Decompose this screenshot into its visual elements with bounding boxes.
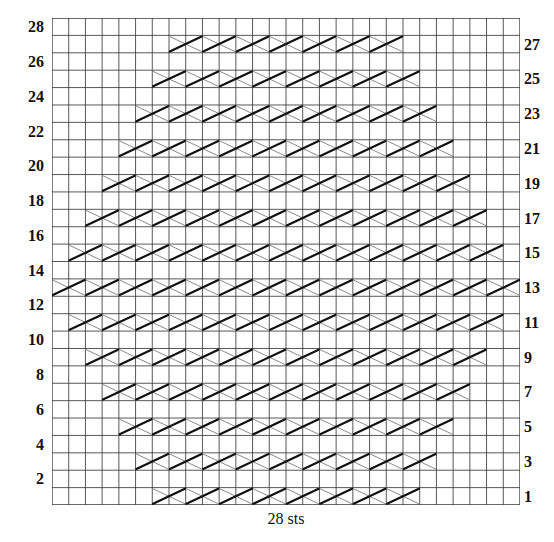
row-label-4: 4 xyxy=(0,436,44,453)
row-label-27: 27 xyxy=(524,36,554,53)
row-label-23: 23 xyxy=(524,105,554,122)
row-label-11: 11 xyxy=(524,314,554,331)
row-label-16: 16 xyxy=(0,227,44,244)
row-label-6: 6 xyxy=(0,401,44,418)
row-label-24: 24 xyxy=(0,88,44,105)
knitting-chart-figure: 282624222018161412108642 272523211917151… xyxy=(0,0,554,542)
page-title xyxy=(0,0,554,14)
row-label-15: 15 xyxy=(524,244,554,261)
row-label-28: 28 xyxy=(0,18,44,35)
row-label-14: 14 xyxy=(0,262,44,279)
row-label-17: 17 xyxy=(524,210,554,227)
row-label-3: 3 xyxy=(524,453,554,470)
row-label-7: 7 xyxy=(524,383,554,400)
row-label-25: 25 xyxy=(524,70,554,87)
row-label-21: 21 xyxy=(524,140,554,157)
row-label-8: 8 xyxy=(0,366,44,383)
row-label-2: 2 xyxy=(0,470,44,487)
row-label-9: 9 xyxy=(524,349,554,366)
row-label-22: 22 xyxy=(0,123,44,140)
row-label-20: 20 xyxy=(0,157,44,174)
row-label-26: 26 xyxy=(0,53,44,70)
row-label-10: 10 xyxy=(0,331,44,348)
chart-grid xyxy=(52,18,520,505)
row-label-1: 1 xyxy=(524,488,554,505)
stitch-count-caption: 28 sts xyxy=(52,510,520,528)
row-label-18: 18 xyxy=(0,192,44,209)
row-label-5: 5 xyxy=(524,418,554,435)
row-label-19: 19 xyxy=(524,175,554,192)
chart-grid-svg xyxy=(52,18,520,505)
row-label-13: 13 xyxy=(524,279,554,296)
row-label-12: 12 xyxy=(0,296,44,313)
